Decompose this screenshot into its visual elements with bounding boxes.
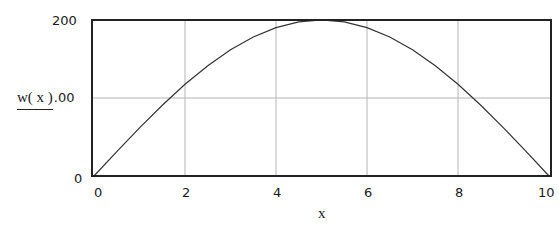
x-tick-6: 6 xyxy=(364,186,372,199)
x-axis-label: x xyxy=(318,206,326,221)
x-tick-8: 8 xyxy=(455,186,463,199)
y-axis-label: w( x ) .00 xyxy=(17,89,75,110)
x-tick-0: 0 xyxy=(94,186,102,199)
y-tick-0: 0 xyxy=(74,172,82,185)
y-tick-100-partial: .00 xyxy=(54,90,75,105)
x-tick-4: 4 xyxy=(273,186,281,199)
grid-lines xyxy=(92,20,551,176)
x-tick-2: 2 xyxy=(182,186,190,199)
y-axis-expression: w( x ) xyxy=(17,89,53,110)
y-tick-200: 200 xyxy=(52,14,77,27)
x-tick-10: 10 xyxy=(538,186,555,199)
